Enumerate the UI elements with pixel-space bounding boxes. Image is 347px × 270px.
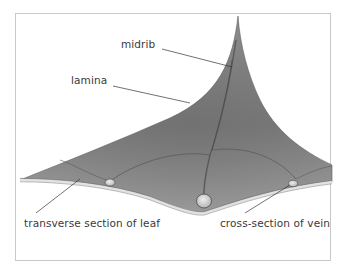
- leaf-illustration: [0, 0, 347, 270]
- midrib-leader: [162, 49, 232, 67]
- label-lamina: lamina: [71, 74, 107, 86]
- label-transverse-section: transverse section of leaf: [24, 217, 160, 229]
- label-midrib: midrib: [121, 38, 155, 50]
- label-cross-section-vein: cross-section of vein: [220, 217, 330, 229]
- lamina-leader: [113, 86, 190, 103]
- transverse-section-leader: [36, 179, 80, 213]
